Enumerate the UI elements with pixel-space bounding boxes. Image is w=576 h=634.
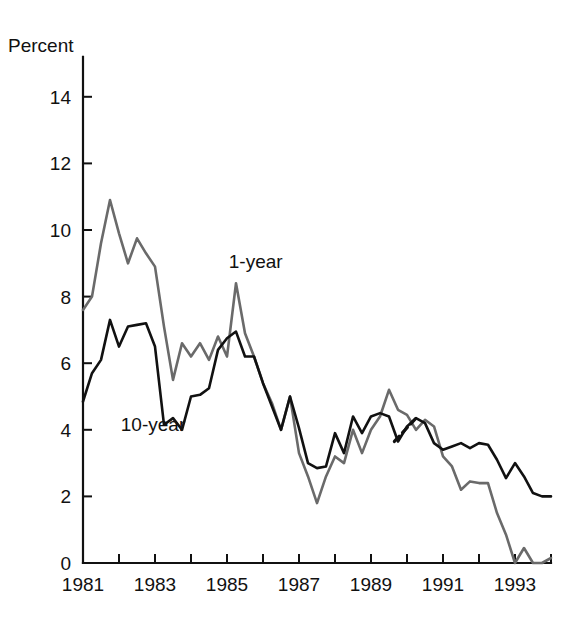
series-group (83, 200, 551, 563)
y-tick-group: 02468101214 (50, 87, 92, 574)
y-tick-label: 14 (50, 87, 72, 108)
x-tick-label: 1991 (422, 574, 464, 595)
y-tick-label: 10 (50, 220, 71, 241)
y-tick-label: 6 (60, 353, 71, 374)
x-tick-label: 1989 (350, 574, 392, 595)
x-tick-label: 1981 (62, 574, 104, 595)
y-axis-label: Percent (8, 35, 74, 56)
x-tick-label: 1985 (206, 574, 248, 595)
x-tick-label: 1993 (494, 574, 536, 595)
x-tick-group: 1981198319851987198919911993 (62, 554, 551, 595)
series-annotation-10-year: 10-year (121, 414, 186, 435)
line-chart: Percent 02468101214 19811983198519871989… (0, 0, 576, 634)
series-line-1-year (83, 200, 551, 563)
series-annotation-1-year: 1-year (229, 251, 284, 272)
y-tick-label: 12 (50, 153, 71, 174)
x-tick-label: 1987 (278, 574, 320, 595)
y-tick-label: 0 (60, 553, 71, 574)
y-tick-label: 4 (60, 420, 71, 441)
series-dashed-segment-10-year (394, 418, 416, 441)
series-annotation-group: 1-year10-year (121, 251, 284, 435)
x-tick-label: 1983 (134, 574, 176, 595)
y-tick-label: 8 (60, 287, 71, 308)
y-tick-label: 2 (60, 486, 71, 507)
series-line-10-year (83, 320, 551, 496)
chart-container: Percent 02468101214 19811983198519871989… (0, 0, 576, 634)
